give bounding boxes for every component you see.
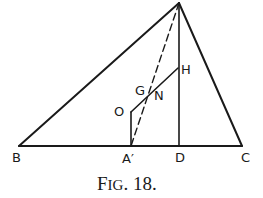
label-n: N	[154, 88, 164, 103]
label-c: C	[241, 150, 250, 165]
label-o: O	[114, 104, 124, 119]
figure-caption: FIG. 18.	[97, 173, 157, 194]
label-g: G	[135, 83, 145, 98]
label-a-prime: A′	[122, 151, 134, 166]
label-b: B	[12, 150, 21, 165]
label-d: D	[175, 150, 185, 165]
label-h: H	[181, 62, 191, 77]
side-ab	[19, 3, 179, 146]
triangle-diagram: B A′ D C O G N H FIG. 18.	[0, 0, 263, 198]
